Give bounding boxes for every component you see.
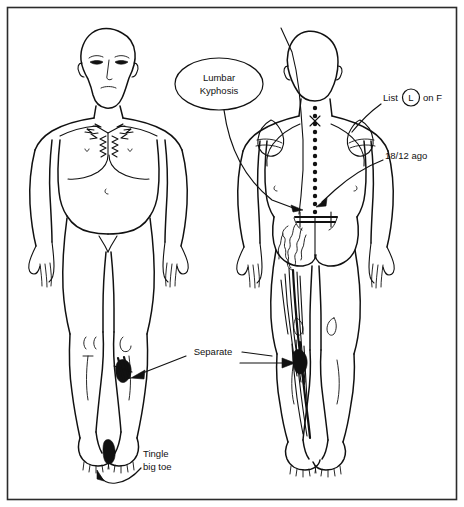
anterior-ankle-left <box>96 432 102 453</box>
anterior-big-toe-pain-mark <box>103 439 115 464</box>
posterior-finger-right-2 <box>376 265 378 288</box>
posterior-arm-left-inner <box>258 141 260 243</box>
anterior-toe-left-1 <box>83 462 84 470</box>
posterior-finger-left-2 <box>253 265 255 288</box>
posterior-toe-right-2 <box>334 469 335 476</box>
posterior-finger-left-1 <box>248 265 250 287</box>
anterior-nipple-left <box>85 149 89 151</box>
anterior-toe-left-2 <box>89 465 90 472</box>
lumbar-kyphosis-ellipse <box>175 58 263 110</box>
posterior-calf-right-contour <box>337 360 339 404</box>
lumbar-kyphosis-leader-line <box>224 110 296 209</box>
anterior-thigh-left-outer <box>63 218 70 334</box>
anterior-neck-left <box>94 106 96 118</box>
anterior-torso-right <box>150 140 159 216</box>
anterior-hand-right-outline <box>177 246 188 274</box>
anterior-mouth <box>101 87 116 89</box>
posterior-finger-right-1 <box>381 265 383 287</box>
anterior-eyebrow-left <box>89 56 103 58</box>
posterior-calf-right-inner <box>321 350 328 440</box>
list-circled-letter: L <box>408 92 413 103</box>
annotation-duration[interactable]: 18/12 ago <box>316 150 427 207</box>
separate-arrowhead-left <box>131 370 145 379</box>
posterior-thigh-right-outer <box>354 250 360 354</box>
anterior-hip-right <box>108 216 150 234</box>
anterior-arm-right-inner <box>165 140 167 242</box>
posterior-sacral-left <box>294 218 302 230</box>
posterior-toe-left-1 <box>290 466 291 474</box>
body-chart-canvas: Lumbar Kyphosis List L on F 18/12 ago Se… <box>0 0 464 507</box>
posterior-toe-left-2 <box>296 469 297 476</box>
anterior-knee-right-patella <box>120 337 131 352</box>
posterior-dimple-left <box>274 186 277 191</box>
anterior-groin-left <box>99 236 108 252</box>
anterior-finger-right-2 <box>170 264 172 287</box>
tingle-label-line1: Tingle <box>143 448 169 459</box>
anterior-neck-right <box>120 106 123 118</box>
posterior-torso-left <box>265 141 274 217</box>
posterior-achilles-right <box>322 440 328 459</box>
posterior-shoulder-left <box>243 116 299 151</box>
list-label-suffix: on F <box>423 92 442 103</box>
posterior-arm-right-inner <box>371 141 373 243</box>
posterior-lumbosacral-level-bar <box>295 212 337 227</box>
annotation-list-on-f[interactable]: List L on F <box>352 89 442 132</box>
anterior-thigh-left-inner <box>103 252 106 332</box>
tingle-leader-line <box>100 468 141 483</box>
posterior-toe-right-1 <box>340 466 341 474</box>
anterior-eyebrow-right <box>115 56 129 58</box>
anterior-body-figure <box>29 29 189 474</box>
annotation-separate[interactable]: Separate <box>131 346 295 379</box>
anterior-finger-right-1 <box>175 264 177 286</box>
tingle-label-line2: big toe <box>143 461 172 472</box>
anterior-eye-left <box>90 61 103 65</box>
anterior-calf-left-contour <box>87 356 89 400</box>
lumbar-kyphosis-arrowhead <box>291 205 303 212</box>
separate-label: Separate <box>194 346 233 357</box>
anterior-torso-left <box>58 140 67 216</box>
annotation-lumbar-kyphosis[interactable]: Lumbar Kyphosis <box>175 58 303 212</box>
body-chart-diagram: Lumbar Kyphosis List L on F 18/12 ago Se… <box>0 0 464 507</box>
list-label-prefix: List <box>383 92 398 103</box>
lumbar-kyphosis-label-line1: Lumbar <box>203 72 235 83</box>
posterior-dimple-right <box>354 186 357 191</box>
anterior-hand-left-outline <box>29 246 40 274</box>
anterior-arm-left-inner <box>50 140 52 242</box>
posterior-thigh-left-outer <box>271 250 277 354</box>
anterior-shin-right-inner <box>114 332 121 432</box>
duration-arrowhead <box>316 198 327 207</box>
posterior-knee-right-crease <box>327 318 336 335</box>
posterior-buttock-scribble-mark <box>278 224 306 270</box>
anterior-toe-right-1 <box>133 462 134 470</box>
posterior-thigh-left-inner <box>310 266 312 350</box>
posterior-finger-left-3 <box>258 264 259 287</box>
anterior-finger-left-3 <box>50 263 51 286</box>
anterior-thigh-right-inner <box>111 252 114 332</box>
anterior-arm-right-outer <box>181 150 187 246</box>
posterior-thigh-pain-blotch <box>293 350 307 374</box>
duration-label: 18/12 ago <box>385 150 427 161</box>
posterior-shoulder-right <box>332 116 388 151</box>
posterior-calf-right-outer <box>343 354 354 442</box>
anterior-nose <box>107 60 112 80</box>
posterior-finger-right-3 <box>372 264 373 287</box>
anterior-groin-right <box>108 236 117 252</box>
anterior-chest-pain-zigzag <box>85 124 133 157</box>
anterior-finger-left-1 <box>40 264 42 286</box>
anterior-clavicle-left <box>60 126 96 136</box>
anterior-toe-right-2 <box>127 465 128 472</box>
posterior-hand-right-outline <box>383 247 394 275</box>
posterior-torso-right <box>357 141 366 217</box>
posterior-hand-left-outline <box>237 247 248 275</box>
anterior-eye-right <box>115 61 128 65</box>
separate-leader-right-stub <box>242 352 272 356</box>
posterior-thigh-right-inner <box>319 266 321 350</box>
posterior-body-figure <box>237 28 395 477</box>
posterior-achilles-left <box>303 440 309 459</box>
posterior-arm-right-outer <box>387 151 393 247</box>
anterior-hip-left <box>67 216 108 234</box>
anterior-knee-left-detail <box>94 337 96 349</box>
anterior-pectoral-right <box>109 155 149 179</box>
anterior-shin-right-outer <box>137 334 148 438</box>
anterior-umbilicus <box>105 189 108 194</box>
